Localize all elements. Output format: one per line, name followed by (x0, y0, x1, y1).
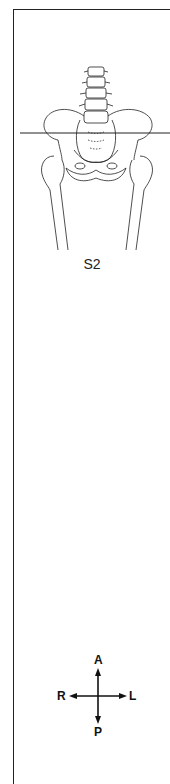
left-label: L (129, 689, 136, 703)
pubic-symphysis-icon (66, 168, 126, 181)
right-femur-icon (42, 156, 69, 250)
right-label: R (57, 689, 66, 703)
right-ilium-icon (44, 109, 84, 160)
left-ilium-icon (108, 109, 152, 160)
left-femur-icon (126, 156, 153, 250)
posterior-label: P (94, 725, 102, 739)
slice-label: S2 (72, 256, 112, 272)
pelvis-illustration (0, 0, 170, 300)
lumbar-spine-icon (79, 67, 113, 123)
sacrum-icon (76, 120, 115, 163)
orientation-compass: A P R L (55, 650, 145, 740)
anterior-label: A (94, 653, 103, 667)
